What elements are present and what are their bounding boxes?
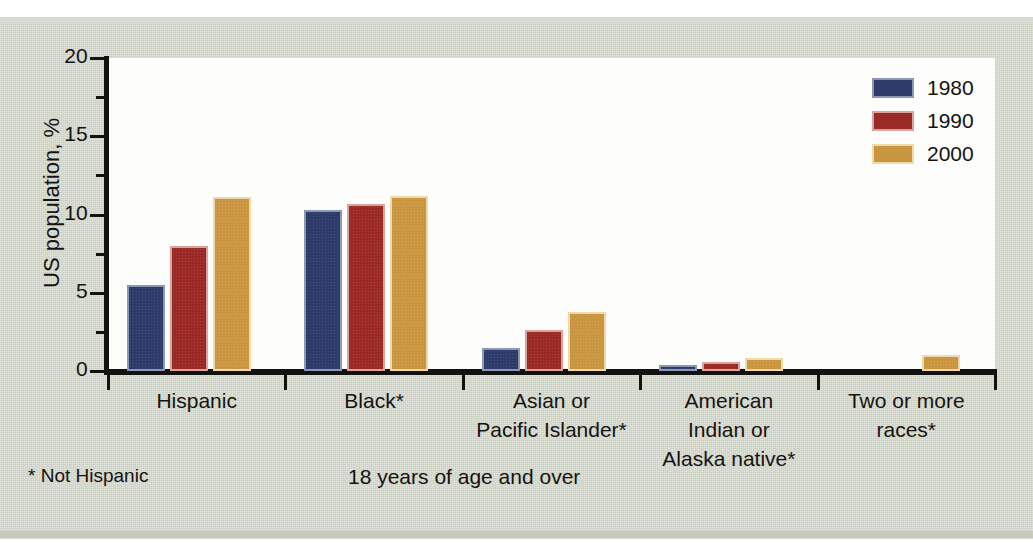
y-axis-tick-label: 5 — [26, 279, 88, 303]
x-axis-category-label: Asian orPacific Islander* — [463, 386, 640, 444]
footnote-not-hispanic: * Not Hispanic — [28, 465, 148, 487]
y-axis-tick-label: 20 — [26, 44, 88, 68]
y-axis-tick-label-wrap: 5 — [0, 279, 88, 303]
y-axis-tick-minor — [96, 174, 105, 177]
footnote-age-range: 18 years of age and over — [348, 465, 580, 489]
y-axis-tick-minor — [96, 253, 105, 256]
bar — [304, 210, 342, 371]
x-axis-category-label-line: Hispanic — [108, 386, 285, 415]
legend-label: 1990 — [927, 109, 974, 133]
y-axis-tick-major — [90, 292, 105, 295]
x-axis-category-label-line: Asian or — [463, 386, 640, 415]
y-axis-tick-major — [90, 135, 105, 138]
bar — [213, 197, 251, 371]
legend-label: 2000 — [927, 142, 974, 166]
y-axis-tick-minor — [96, 331, 105, 334]
bar — [525, 330, 563, 371]
legend-color-swatch — [872, 111, 914, 131]
y-axis-tick-major — [90, 214, 105, 217]
bar — [922, 355, 960, 371]
legend-item: 2000 — [872, 140, 994, 168]
y-axis-tick-label-wrap: 0 — [0, 357, 88, 381]
y-axis-tick-label-wrap: 10 — [0, 201, 88, 225]
x-axis-category-label: Black* — [285, 386, 462, 415]
bar — [127, 285, 165, 371]
legend-label: 1980 — [927, 76, 974, 100]
bar — [659, 365, 697, 371]
bar — [568, 312, 606, 371]
bar — [702, 362, 740, 371]
legend-item: 1990 — [872, 107, 994, 135]
y-axis-tick-major — [90, 57, 105, 60]
legend-color-swatch — [872, 144, 914, 164]
x-axis-category-label-line: Alaska native* — [640, 444, 817, 473]
legend-color-swatch — [872, 78, 914, 98]
x-axis-category-label-line: American — [640, 386, 817, 415]
bar — [170, 246, 208, 371]
chart-legend: 198019902000 — [872, 74, 994, 173]
bar — [482, 348, 520, 371]
bar — [347, 204, 385, 371]
x-axis-category-label: Two or moreraces* — [818, 386, 995, 444]
x-axis-category-label-line: Indian or — [640, 415, 817, 444]
y-axis-tick-label: 0 — [26, 357, 88, 381]
y-axis-tick-major — [90, 370, 105, 373]
paper-top-edge — [0, 17, 1033, 24]
x-axis-category-label-line: Pacific Islander* — [463, 415, 640, 444]
bars-layer — [108, 58, 995, 371]
y-axis-tick-label-wrap: 20 — [0, 44, 88, 68]
bar — [745, 358, 783, 371]
x-axis-category-label-line: Two or more — [818, 386, 995, 415]
y-axis-tick-label-wrap: 15 — [0, 122, 88, 146]
y-axis-tick-label: 10 — [26, 201, 88, 225]
x-axis-category-label-line: races* — [818, 415, 995, 444]
x-axis-category-label-line: Black* — [285, 386, 462, 415]
x-axis-category-label: Hispanic — [108, 386, 285, 415]
bar — [390, 196, 428, 371]
paper-bottom-edge — [0, 531, 1033, 539]
figure-root: US population, % 05101520 HispanicBlack*… — [0, 0, 1033, 543]
x-axis-category-label: AmericanIndian orAlaska native* — [640, 386, 817, 473]
y-axis-tick-label: 15 — [26, 122, 88, 146]
legend-item: 1980 — [872, 74, 994, 102]
y-axis-tick-minor — [96, 96, 105, 99]
